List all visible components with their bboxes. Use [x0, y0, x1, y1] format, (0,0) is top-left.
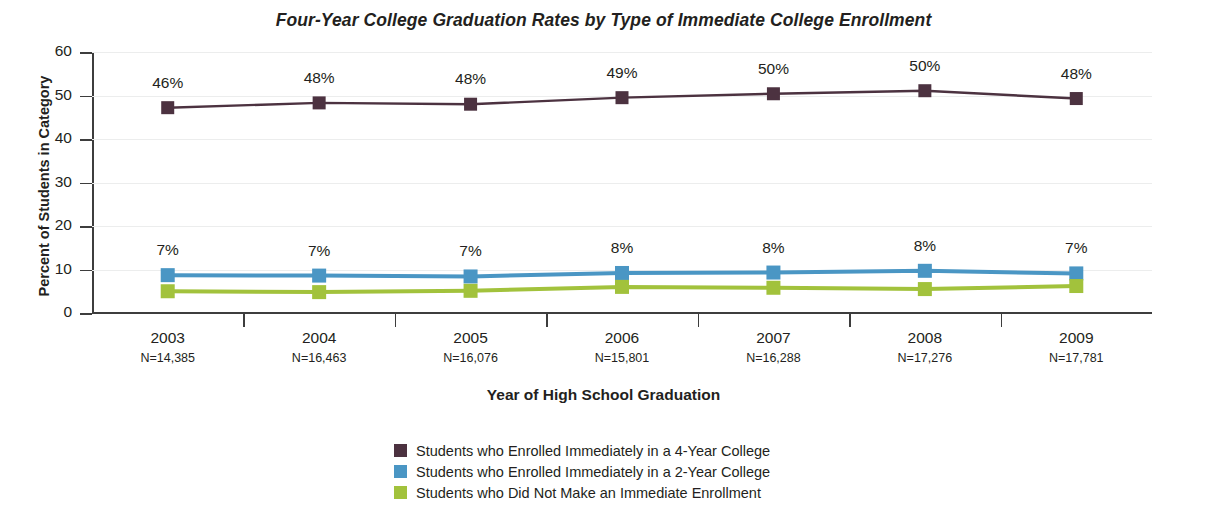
- x-category-label: 2008N=17,276: [850, 328, 1000, 367]
- series-marker: [615, 266, 629, 280]
- x-category-label: 2004N=16,463: [244, 328, 394, 367]
- legend-label: Students who Did Not Make an Immediate E…: [416, 485, 761, 501]
- x-tick-mark: [849, 314, 851, 327]
- series-marker: [767, 87, 780, 100]
- series-marker: [464, 284, 478, 298]
- series-marker: [313, 96, 326, 109]
- series-3: [161, 279, 1084, 299]
- series-marker: [312, 285, 326, 299]
- x-category-year: 2005: [396, 328, 546, 349]
- series-marker: [161, 284, 175, 298]
- legend-label: Students who Enrolled Immediately in a 2…: [416, 464, 770, 480]
- x-category-label: 2006N=15,801: [547, 328, 697, 367]
- series-marker: [1069, 279, 1083, 293]
- x-category-sample-size: N=16,076: [396, 350, 546, 367]
- x-category-year: 2009: [1001, 328, 1151, 349]
- legend-swatch-icon: [394, 444, 407, 457]
- y-tick-label: 30: [32, 174, 72, 190]
- series-marker: [616, 91, 629, 104]
- data-label: 7%: [431, 242, 511, 260]
- x-tick-mark: [243, 314, 245, 327]
- x-category-year: 2004: [244, 328, 394, 349]
- x-axis-title: Year of High School Graduation: [0, 386, 1207, 404]
- series-marker: [1070, 92, 1083, 105]
- x-category-sample-size: N=16,288: [698, 350, 848, 367]
- x-category-label: 2007N=16,288: [698, 328, 848, 367]
- series-marker: [161, 101, 174, 114]
- series-marker: [312, 269, 326, 283]
- legend-label: Students who Enrolled Immediately in a 4…: [416, 443, 770, 459]
- x-category-label: 2009N=17,781: [1001, 328, 1151, 367]
- y-tick-mark: [80, 96, 92, 98]
- y-tick-label: 50: [32, 87, 72, 103]
- y-tick-label: 40: [32, 130, 72, 146]
- series-marker: [766, 281, 780, 295]
- y-tick-mark: [80, 270, 92, 272]
- x-category-year: 2007: [698, 328, 848, 349]
- x-category-sample-size: N=17,276: [850, 350, 1000, 367]
- data-label: 49%: [582, 64, 662, 82]
- x-category-year: 2006: [547, 328, 697, 349]
- x-category-label: 2003N=14,385: [93, 328, 243, 367]
- series-marker: [1069, 266, 1083, 280]
- series-marker: [161, 268, 175, 282]
- x-tick-mark: [395, 314, 397, 327]
- series-marker: [918, 264, 932, 278]
- plot-area: [92, 52, 1152, 313]
- y-tick-mark: [80, 226, 92, 228]
- data-label: 48%: [279, 69, 359, 87]
- data-label: 7%: [1036, 239, 1116, 257]
- y-tick-mark: [80, 139, 92, 141]
- x-tick-mark: [1001, 314, 1003, 327]
- data-label: 8%: [885, 237, 965, 255]
- data-label: 8%: [733, 239, 813, 257]
- data-label: 8%: [582, 239, 662, 257]
- legend-swatch-icon: [394, 486, 407, 499]
- x-category-sample-size: N=15,801: [547, 350, 697, 367]
- y-tick-label: 60: [32, 43, 72, 59]
- legend-item[interactable]: Students who Enrolled Immediately in a 2…: [0, 461, 1207, 482]
- y-tick-label: 20: [32, 217, 72, 233]
- data-label: 50%: [885, 57, 965, 75]
- y-tick-mark: [80, 183, 92, 185]
- x-category-sample-size: N=14,385: [93, 350, 243, 367]
- series-marker: [615, 280, 629, 294]
- chart-title: Four-Year College Graduation Rates by Ty…: [0, 10, 1207, 31]
- legend-swatch-icon: [394, 465, 407, 478]
- x-category-year: 2008: [850, 328, 1000, 349]
- y-tick-label: 10: [32, 261, 72, 277]
- data-label: 50%: [733, 60, 813, 78]
- x-category-sample-size: N=16,463: [244, 350, 394, 367]
- x-tick-mark: [546, 314, 548, 327]
- data-label: 48%: [1036, 65, 1116, 83]
- series-marker: [918, 282, 932, 296]
- legend-item[interactable]: Students who Enrolled Immediately in a 4…: [0, 440, 1207, 461]
- series-marker: [766, 266, 780, 280]
- series-1: [161, 84, 1083, 114]
- series-marker: [918, 84, 931, 97]
- legend-item[interactable]: Students who Did Not Make an Immediate E…: [0, 482, 1207, 503]
- y-tick-mark: [80, 52, 92, 54]
- y-tick-mark: [80, 313, 92, 315]
- y-tick-label: 0: [32, 304, 72, 320]
- data-label: 46%: [128, 74, 208, 92]
- series-layer: [92, 52, 1152, 313]
- series-marker: [464, 269, 478, 283]
- series-marker: [464, 98, 477, 111]
- x-category-sample-size: N=17,781: [1001, 350, 1151, 367]
- legend: Students who Enrolled Immediately in a 4…: [0, 440, 1207, 503]
- x-category-year: 2003: [93, 328, 243, 349]
- x-category-label: 2005N=16,076: [396, 328, 546, 367]
- data-label: 48%: [431, 70, 511, 88]
- data-label: 7%: [128, 241, 208, 259]
- data-label: 7%: [279, 242, 359, 260]
- x-tick-mark: [698, 314, 700, 327]
